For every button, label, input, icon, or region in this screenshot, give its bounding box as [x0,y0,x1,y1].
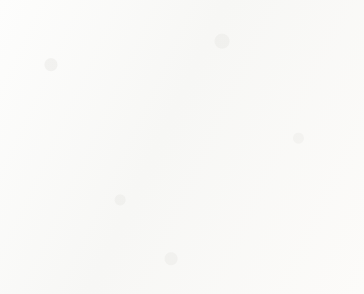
bar-chart-figure: 120 100 80 60 40 20 0 1913 1915 1917 191… [0,0,364,294]
legend-swatch-pulpwood [69,58,82,71]
y-tick-label-100: 100 [0,45,32,61]
y-tick-label-60: 60 [0,129,32,145]
legend-label-newsprint: Newsprint [105,20,166,36]
x-tick-label-1915: 1915 [113,271,155,287]
x-tick-label-1919: 1919 [247,271,289,287]
legend-swatch-newsprint [69,24,82,37]
y-tick-label-80: 80 [0,87,32,103]
y-tick-label-20: 20 [0,212,32,228]
y-tick-label-0: 0 [0,254,32,270]
chart-labels-layer: 120 100 80 60 40 20 0 1913 1915 1917 191… [0,0,364,294]
x-tick-label-1921: 1921 [314,271,356,287]
x-tick-label-1913: 1913 [46,271,88,287]
legend-label-pulpwood: Pulpwood [105,54,164,70]
y-tick-label-40: 40 [0,170,32,186]
x-tick-label-1917: 1917 [180,271,222,287]
y-tick-label-120: 120 [0,3,32,19]
